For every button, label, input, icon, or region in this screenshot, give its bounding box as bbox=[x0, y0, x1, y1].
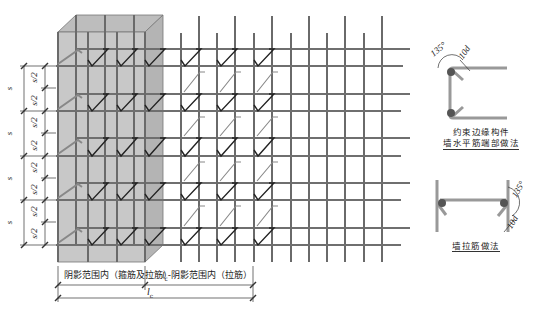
total-length-label: lc bbox=[147, 287, 153, 299]
left-dimension-lines bbox=[20, 63, 56, 248]
rebar-diagram-canvas bbox=[0, 0, 538, 313]
detail-1-caption: 约束边缘构件 墙水平筋端部做法 bbox=[436, 127, 526, 150]
detail-2-caption-text: 墙拉筋做法 bbox=[452, 241, 500, 252]
dim-label-s: s bbox=[5, 132, 14, 136]
remaining-zone-suffix: -阴影范围内（拉筋） bbox=[168, 270, 252, 280]
dim-label-half-s: s/2 bbox=[30, 72, 39, 83]
dim-label-s: s bbox=[5, 177, 14, 181]
dim-label-half-s: s/2 bbox=[30, 184, 39, 195]
dim-label-half-s: s/2 bbox=[30, 117, 39, 128]
detail-1-caption-line1: 约束边缘构件 bbox=[436, 127, 526, 138]
detail-1-horizontal-bar-end bbox=[438, 55, 507, 118]
detail-2-caption: 墙拉筋做法 bbox=[446, 241, 506, 252]
dim-label-half-s: s/2 bbox=[30, 228, 39, 239]
lc-subscript: c bbox=[150, 292, 153, 299]
dim-label-s: s bbox=[5, 87, 14, 91]
dim-label-half-s: s/2 bbox=[30, 206, 39, 217]
dim-label-half-s: s/2 bbox=[30, 162, 39, 173]
remaining-zone-label: lc-阴影范围内（拉筋） bbox=[162, 268, 252, 282]
dim-label-half-s: s/2 bbox=[30, 95, 39, 106]
dim-label-half-s: s/2 bbox=[30, 140, 39, 151]
shaded-zone-label: 阴影范围内（箍筋及拉筋） bbox=[64, 268, 172, 281]
dim-label-s: s bbox=[5, 221, 14, 225]
detail-1-caption-line2: 墙水平筋端部做法 bbox=[443, 138, 519, 150]
